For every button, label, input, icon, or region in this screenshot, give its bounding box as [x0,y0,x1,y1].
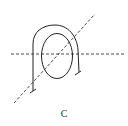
diagonal-dashed-axis [14,14,95,103]
right-foot-tick [75,71,81,75]
inner-oval [42,34,73,79]
figure-label: C [0,108,128,119]
